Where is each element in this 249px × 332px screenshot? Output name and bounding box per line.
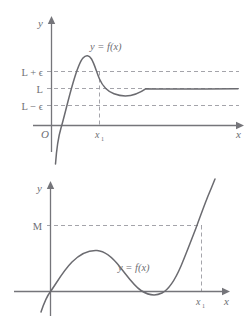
bottom-panel: y x M x 1 y = f(x) [0, 166, 249, 332]
curve-label: y = f(x) [89, 41, 122, 53]
curve-label: y = f(x) [117, 262, 150, 274]
tick-label-x1: x 1 [94, 129, 104, 142]
tick-label-m: M [33, 221, 43, 232]
y-axis-label: y [37, 17, 43, 29]
bottom-panel-svg: y x M x 1 y = f(x) [0, 166, 249, 332]
x-axis-label: x [235, 128, 241, 140]
tick-label-x1-base: x [195, 296, 201, 307]
y-axis-arrow [48, 16, 55, 24]
top-panel-svg: y x O L + ϵ L L − ϵ x 1 y = f(x) [0, 0, 249, 166]
figure-stack: y x O L + ϵ L L − ϵ x 1 y = f(x) [0, 0, 249, 332]
tick-label-x1: x 1 [195, 296, 205, 309]
tick-label-x1-base: x [94, 129, 100, 140]
y-axis-arrow [47, 181, 54, 189]
tick-label-x1-subscript: 1 [101, 136, 104, 142]
tick-label-x1-subscript: 1 [202, 303, 205, 309]
x-axis-label: x [223, 295, 229, 307]
origin-label: O [41, 128, 49, 140]
top-panel: y x O L + ϵ L L − ϵ x 1 y = f(x) [0, 0, 249, 166]
y-axis-label: y [36, 182, 42, 194]
tick-label-l: L [37, 84, 43, 95]
tick-label-l-minus-epsilon: L − ϵ [22, 101, 44, 112]
tick-label-l-plus-epsilon: L + ϵ [22, 67, 44, 78]
